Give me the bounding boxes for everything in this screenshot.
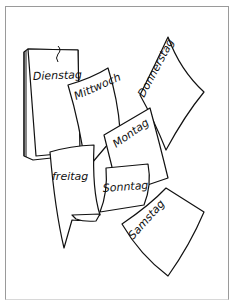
label-freitag: freitag (52, 170, 88, 183)
page-sonntag: Sonntag (100, 164, 149, 212)
label-dienstag: Dienstag (33, 68, 82, 83)
days-of-week-illustration: Dienstag Mittwoch Donnerstag Montag frei… (0, 0, 233, 302)
page-freitag: freitag (50, 145, 100, 248)
